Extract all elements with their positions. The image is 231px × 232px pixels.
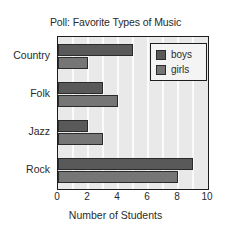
bar-rock-girls <box>58 171 178 183</box>
bar-chart: Poll: Favorite Types of Music CountryFol… <box>0 0 231 232</box>
x-tick-2: 2 <box>75 191 99 202</box>
bar-rock-boys <box>58 158 193 170</box>
x-tick-4: 4 <box>105 191 129 202</box>
category-label-folk: Folk <box>0 87 50 99</box>
bar-group <box>58 120 208 145</box>
x-tick-8: 8 <box>165 191 189 202</box>
category-label-country: Country <box>0 49 50 61</box>
legend: boysgirls <box>150 43 207 81</box>
x-axis-title: Number of Students <box>0 209 231 221</box>
legend-label-girls: girls <box>171 64 189 75</box>
legend-swatch-boys <box>156 50 166 60</box>
bar-country-boys <box>58 44 133 56</box>
chart-title: Poll: Favorite Types of Music <box>0 16 231 28</box>
legend-swatch-girls <box>156 65 166 75</box>
legend-item-boys: boys <box>156 48 202 61</box>
x-tick-10: 10 <box>195 191 219 202</box>
bar-folk-boys <box>58 82 103 94</box>
bar-country-girls <box>58 57 88 69</box>
bar-folk-girls <box>58 95 118 107</box>
x-tick-6: 6 <box>135 191 159 202</box>
category-label-jazz: Jazz <box>0 125 50 137</box>
legend-label-boys: boys <box>171 49 192 60</box>
x-tick-0: 0 <box>45 191 69 202</box>
legend-item-girls: girls <box>156 63 202 76</box>
bar-jazz-boys <box>58 120 88 132</box>
category-label-rock: Rock <box>0 163 50 175</box>
bar-group <box>58 158 208 183</box>
bar-jazz-girls <box>58 133 103 145</box>
bar-group <box>58 82 208 107</box>
